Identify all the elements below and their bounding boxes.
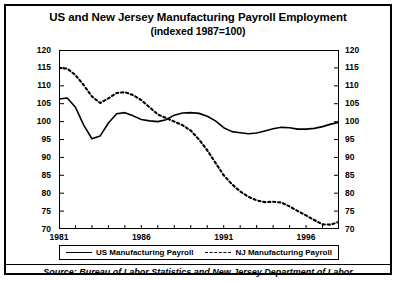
series-line-us bbox=[59, 98, 339, 139]
y-tick-right-70: 70 bbox=[345, 225, 375, 234]
legend-swatch-solid-icon bbox=[66, 252, 92, 253]
y-tick-left-75: 75 bbox=[21, 207, 51, 216]
y-tick-left-90: 90 bbox=[21, 153, 51, 162]
chart-figure: US and New Jersey Manufacturing Payroll … bbox=[4, 4, 392, 275]
legend-item-us: US Manufacturing Payroll bbox=[66, 248, 193, 257]
y-tick-left-120: 120 bbox=[21, 46, 51, 55]
series-line-nj bbox=[59, 68, 339, 225]
y-tick-left-80: 80 bbox=[21, 189, 51, 198]
chart-legend: US Manufacturing Payroll NJ Manufacturin… bbox=[59, 245, 339, 260]
y-tick-right-90: 90 bbox=[345, 153, 375, 162]
y-tick-right-80: 80 bbox=[345, 189, 375, 198]
source-note: Source: Bureau of Labor Statistics and N… bbox=[6, 267, 390, 277]
y-tick-right-100: 100 bbox=[345, 117, 375, 126]
legend-label-nj: NJ Manufacturing Payroll bbox=[235, 248, 331, 257]
y-tick-right-115: 115 bbox=[345, 63, 375, 72]
chart-title-block: US and New Jersey Manufacturing Payroll … bbox=[6, 10, 390, 38]
source-divider bbox=[6, 264, 390, 265]
y-tick-right-120: 120 bbox=[345, 46, 375, 55]
y-tick-right-95: 95 bbox=[345, 135, 375, 144]
y-tick-left-95: 95 bbox=[21, 135, 51, 144]
y-tick-left-100: 100 bbox=[21, 117, 51, 126]
legend-swatch-dashed-icon bbox=[205, 252, 231, 253]
y-tick-left-115: 115 bbox=[21, 63, 51, 72]
chart-title: US and New Jersey Manufacturing Payroll … bbox=[6, 10, 390, 24]
chart-subtitle: (indexed 1987=100) bbox=[6, 24, 390, 38]
y-tick-left-85: 85 bbox=[21, 171, 51, 180]
chart-plot-svg bbox=[59, 50, 339, 229]
x-tick-1991: 1991 bbox=[204, 232, 244, 242]
legend-item-nj: NJ Manufacturing Payroll bbox=[205, 248, 331, 257]
y-tick-left-105: 105 bbox=[21, 99, 51, 108]
y-tick-right-110: 110 bbox=[345, 81, 375, 90]
legend-label-us: US Manufacturing Payroll bbox=[96, 248, 193, 257]
y-tick-right-85: 85 bbox=[345, 171, 375, 180]
y-tick-right-75: 75 bbox=[345, 207, 375, 216]
y-tick-left-110: 110 bbox=[21, 81, 51, 90]
x-tick-1996: 1996 bbox=[286, 232, 326, 242]
x-tick-1986: 1986 bbox=[121, 232, 161, 242]
x-tick-1981: 1981 bbox=[39, 232, 79, 242]
y-tick-right-105: 105 bbox=[345, 99, 375, 108]
plot-area bbox=[59, 50, 339, 229]
